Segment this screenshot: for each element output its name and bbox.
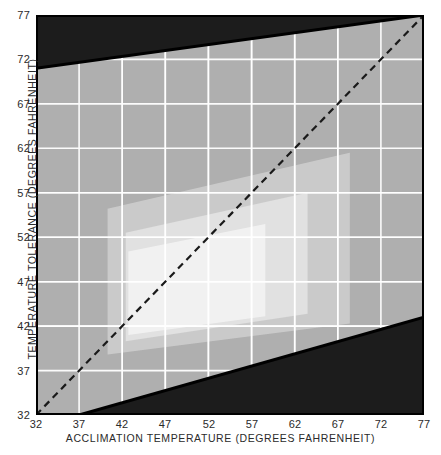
x-tick-label: 72 [375,418,388,430]
x-axis-title: ACCLIMATION TEMPERATURE (DEGREES FAHRENH… [0,432,441,444]
y-tick-label: 32 [4,409,30,421]
x-tick-label: 37 [73,418,86,430]
x-tick-label: 42 [116,418,129,430]
x-tick-label: 62 [289,418,302,430]
temperature-tolerance-chart: 32 37 42 47 52 57 62 67 72 77 32 37 42 4… [0,0,441,455]
plot-canvas [36,15,424,415]
x-tick-label: 67 [332,418,345,430]
y-axis-title: TEMPERATURE TOLERANCE (DEGREES FAHRENHEI… [26,9,38,409]
x-tick-label: 52 [203,418,216,430]
x-tick-label: 32 [30,418,43,430]
plot-area [36,15,424,415]
x-tick-label: 57 [246,418,259,430]
x-tick-label: 77 [418,418,431,430]
x-tick-label: 47 [159,418,172,430]
